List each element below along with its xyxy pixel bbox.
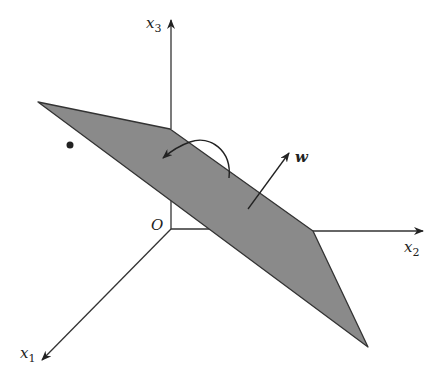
x1-label: x1 [20, 346, 35, 364]
hyperplane-diagram: x3 x2 x1 O w [0, 0, 436, 389]
x3-label: x3 [146, 16, 161, 34]
origin-label: O [151, 218, 163, 233]
x2-label: x2 [404, 240, 419, 258]
w-label: w [295, 150, 308, 165]
hyperplane [38, 102, 368, 347]
diagram-svg [0, 0, 436, 389]
x1-axis [42, 229, 171, 360]
data-point [67, 142, 74, 149]
